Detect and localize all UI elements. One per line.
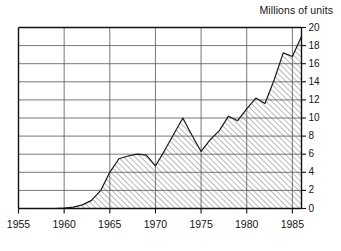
chart-figure: Millions of units 02468101214161820 1955…: [0, 0, 341, 251]
y-tick-label: 16: [309, 58, 320, 69]
x-tick-label: 1965: [90, 218, 130, 230]
x-tick-label: 1985: [272, 218, 312, 230]
y-tick-label: 4: [309, 166, 315, 177]
axis-title: Millions of units: [260, 4, 333, 16]
x-tick-label: 1975: [181, 218, 221, 230]
y-tick-label: 20: [309, 22, 320, 33]
x-tick-label: 1970: [135, 218, 175, 230]
chart-plot-area: [0, 0, 341, 251]
y-tick-label: 12: [309, 94, 320, 105]
y-tick-label: 10: [309, 112, 320, 123]
y-tick-label: 18: [309, 40, 320, 51]
x-tick-label: 1980: [227, 218, 267, 230]
y-tick-label: 6: [309, 148, 315, 159]
x-tick-label: 1955: [0, 218, 39, 230]
y-tick-label: 14: [309, 76, 320, 87]
x-tick-label: 1960: [44, 218, 84, 230]
y-tick-label: 2: [309, 184, 315, 195]
area-series: [19, 37, 302, 209]
y-tick-label: 8: [309, 130, 315, 141]
y-tick-label: 0: [309, 203, 315, 214]
